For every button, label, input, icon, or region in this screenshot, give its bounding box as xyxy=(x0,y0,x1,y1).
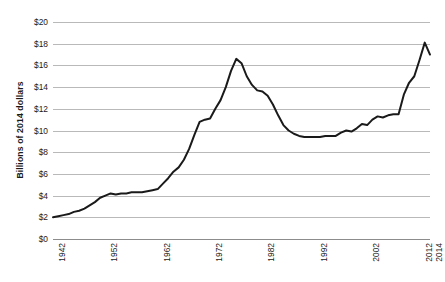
y-tick-label: $20 xyxy=(22,17,48,27)
y-tick-label: $4 xyxy=(22,191,48,201)
chart-container: Billions of 2014 dollars $20$18$16$14$12… xyxy=(0,0,445,282)
y-tick-label: $0 xyxy=(22,234,48,244)
y-tick-label: $12 xyxy=(22,104,48,114)
y-tick-label: $8 xyxy=(22,147,48,157)
x-tick-label: 2002 xyxy=(371,243,381,277)
line-series xyxy=(53,22,430,239)
x-tick-label: 1942 xyxy=(57,243,67,277)
series-polyline xyxy=(53,43,430,218)
x-tick-label: 1992 xyxy=(319,243,329,277)
gridline xyxy=(53,239,430,240)
y-tick-label: $10 xyxy=(22,126,48,136)
plot-area xyxy=(53,22,430,239)
y-tick-label: $14 xyxy=(22,82,48,92)
x-tick-label: 1982 xyxy=(266,243,276,277)
y-tick-label: $2 xyxy=(22,212,48,222)
x-tick-label: 2012 xyxy=(424,243,434,277)
x-tick-label: 2014 xyxy=(434,243,444,277)
y-tick-label: $16 xyxy=(22,60,48,70)
x-tick-label: 1952 xyxy=(109,243,119,277)
y-tick-label: $18 xyxy=(22,39,48,49)
x-tick-label: 1972 xyxy=(214,243,224,277)
x-tick-label: 1962 xyxy=(162,243,172,277)
y-tick-label: $6 xyxy=(22,169,48,179)
